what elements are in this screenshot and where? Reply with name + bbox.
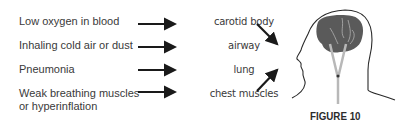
brain-icon [316, 15, 363, 52]
figure-label: FIGURE 10 [310, 110, 361, 122]
head-silhouette-icon [292, 10, 395, 104]
arrow-icons [138, 24, 277, 92]
